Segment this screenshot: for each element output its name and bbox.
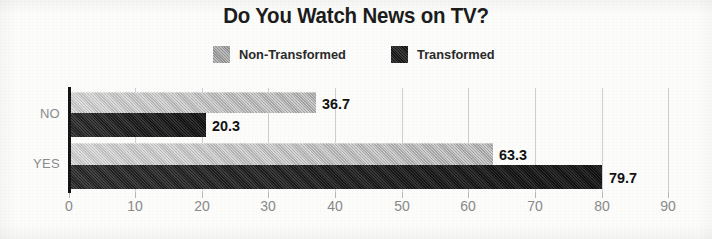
chart-legend: Non-Transformed Transformed bbox=[0, 43, 712, 65]
legend-entry-transformed: Transformed bbox=[391, 46, 499, 63]
chart-title: Do You Watch News on TV? bbox=[25, 3, 687, 29]
tick-label-70: 70 bbox=[515, 198, 555, 214]
tick-label-90: 90 bbox=[648, 198, 688, 214]
legend-entry-non-transformed: Non-Transformed bbox=[213, 46, 352, 63]
bar-value-no-transformed: 20.3 bbox=[212, 117, 240, 134]
category-axis-line bbox=[68, 87, 71, 193]
bar-yes-non-transformed bbox=[71, 143, 493, 165]
gridline-90 bbox=[668, 88, 669, 192]
bar-yes-transformed bbox=[71, 165, 602, 189]
gridline-80 bbox=[602, 88, 603, 192]
bar-no-transformed bbox=[71, 113, 206, 137]
legend-label-transformed: Transformed bbox=[417, 47, 495, 62]
bar-value-yes-non-transformed: 63.3 bbox=[499, 146, 527, 163]
category-label-yes: YES bbox=[16, 156, 60, 171]
tick-label-30: 30 bbox=[248, 198, 288, 214]
tick-label-10: 10 bbox=[115, 198, 155, 214]
legend-swatch-dark-icon bbox=[391, 46, 408, 63]
bar-value-no-non-transformed: 36.7 bbox=[322, 95, 350, 112]
tick-label-60: 60 bbox=[448, 198, 488, 214]
plot-area: NO 36.7 20.3 YES 63.3 79.7 0 10 20 30 40… bbox=[0, 0, 712, 239]
tick-label-50: 50 bbox=[382, 198, 422, 214]
tick-label-40: 40 bbox=[315, 198, 355, 214]
tick-label-80: 80 bbox=[582, 198, 622, 214]
legend-swatch-light-gray-icon bbox=[213, 46, 230, 63]
tick-label-20: 20 bbox=[182, 198, 222, 214]
chart-container: Do You Watch News on TV? Non-Transformed… bbox=[0, 0, 712, 239]
category-label-no: NO bbox=[16, 106, 60, 121]
bar-no-non-transformed bbox=[71, 92, 316, 113]
bar-value-yes-transformed: 79.7 bbox=[609, 169, 637, 186]
tick-label-0: 0 bbox=[49, 198, 89, 214]
legend-label-non-transformed: Non-Transformed bbox=[239, 47, 346, 62]
